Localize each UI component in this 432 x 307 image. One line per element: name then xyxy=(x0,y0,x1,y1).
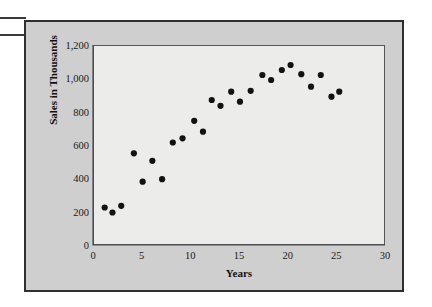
y-axis-tick-label: 200 xyxy=(73,206,89,217)
figure-frame: 02004006008001,0001,200 051015202530 Yea… xyxy=(24,20,404,292)
data-point xyxy=(140,179,146,185)
data-point xyxy=(149,158,155,164)
margin-rule-top-icon xyxy=(0,17,26,19)
axis-spines xyxy=(93,45,385,245)
margin-rule-bottom-icon xyxy=(0,34,26,36)
data-points-group xyxy=(102,62,343,216)
data-point xyxy=(131,150,137,156)
data-point xyxy=(109,209,115,215)
x-axis-tick-label: 5 xyxy=(139,250,144,261)
data-point xyxy=(191,118,197,124)
data-point xyxy=(298,71,304,77)
data-point xyxy=(268,77,274,83)
data-point xyxy=(336,89,342,95)
x-axis-tick-label: 0 xyxy=(90,250,95,261)
data-point xyxy=(209,97,215,103)
data-point xyxy=(159,176,165,182)
data-point xyxy=(259,72,265,78)
data-point xyxy=(328,94,334,100)
data-point xyxy=(118,203,124,209)
data-point xyxy=(248,88,254,94)
data-point xyxy=(237,99,243,105)
x-axis-tick-label: 15 xyxy=(234,250,245,261)
data-point xyxy=(287,62,293,68)
y-axis-title: Sales in Thousands xyxy=(47,5,59,155)
data-point xyxy=(102,204,108,210)
x-axis-tick-label: 30 xyxy=(380,250,391,261)
x-axis-title: Years xyxy=(93,267,385,279)
data-point xyxy=(318,72,324,78)
data-point xyxy=(200,129,206,135)
y-axis-tick-label: 1,000 xyxy=(65,73,89,84)
data-point xyxy=(217,103,223,109)
y-axis-tick-label: 1,200 xyxy=(65,40,89,51)
data-point xyxy=(279,67,285,73)
data-point xyxy=(170,139,176,145)
x-axis-tick-label: 10 xyxy=(185,250,196,261)
x-axis-tick-label: 25 xyxy=(331,250,342,261)
y-axis-tick-label: 400 xyxy=(73,173,89,184)
x-axis-tick-labels: 051015202530 xyxy=(26,250,406,266)
data-point xyxy=(308,84,314,90)
y-axis-tick-label: 600 xyxy=(73,140,89,151)
axes-group xyxy=(93,45,385,245)
data-point xyxy=(179,135,185,141)
x-axis-tick-label: 20 xyxy=(282,250,293,261)
data-point xyxy=(228,89,234,95)
y-axis-tick-label: 0 xyxy=(84,240,89,251)
y-axis-tick-label: 800 xyxy=(73,106,89,117)
